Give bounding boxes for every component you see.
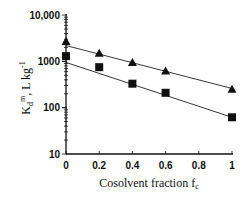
y-tick-label: 10,000 — [29, 10, 60, 21]
x-tick-label: 0.4 — [125, 160, 139, 171]
y-tick-label: 10 — [49, 149, 61, 160]
y-axis-label: Kdm, L kg-1 — [18, 61, 35, 114]
square-marker — [62, 52, 70, 60]
square-marker — [128, 80, 136, 88]
triangle-marker — [62, 37, 71, 45]
y-tick-label: 100 — [43, 102, 60, 113]
x-tick-label: 0.8 — [192, 160, 206, 171]
x-tick-label: 0.6 — [159, 160, 173, 171]
chart: 10100100010,00000.20.40.60.81Cosolvent f… — [0, 0, 249, 201]
x-tick-label: 1 — [229, 160, 235, 171]
x-tick-label: 0.2 — [92, 160, 106, 171]
square-marker — [95, 63, 103, 71]
square-marker — [162, 89, 170, 97]
triangle-marker — [228, 85, 237, 93]
triangles-fit-line — [66, 46, 232, 89]
squares-fit-line — [66, 62, 232, 117]
square-marker — [228, 113, 236, 121]
y-tick-label: 1000 — [38, 56, 61, 67]
x-tick-label: 0 — [63, 160, 69, 171]
x-axis-label: Cosolvent fraction fc — [99, 176, 199, 191]
triangle-marker — [95, 49, 104, 57]
